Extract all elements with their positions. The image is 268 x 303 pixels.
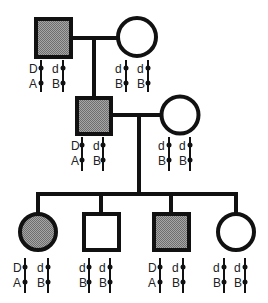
allele-label: A xyxy=(148,276,156,290)
individual-II-2-unaffected-female xyxy=(162,97,199,134)
individual-III-4-unaffected-female xyxy=(218,214,254,250)
allele-label: B xyxy=(79,276,87,290)
allele-label: A xyxy=(71,154,79,168)
allele-label: D xyxy=(29,62,38,76)
genotype-II-2: d B d B xyxy=(158,137,193,171)
genotype-I-1: D A d B xyxy=(29,60,66,92)
genotype-III-3: D A d B xyxy=(148,258,186,293)
allele-label: d xyxy=(115,62,122,76)
allele-label: d xyxy=(172,261,179,275)
allele-label: d xyxy=(213,261,220,275)
allele-label: A xyxy=(29,77,37,91)
allele-label: B xyxy=(179,154,187,168)
individual-III-2-unaffected-male xyxy=(84,214,119,250)
allele-label: d xyxy=(93,139,100,153)
allele-label: B xyxy=(172,276,180,290)
allele-label: d xyxy=(79,261,86,275)
allele-label: B xyxy=(115,77,123,91)
allele-label: B xyxy=(158,154,166,168)
allele-label: B xyxy=(137,77,145,91)
genotype-II-1: D A d B xyxy=(71,137,106,171)
allele-label: d xyxy=(234,261,241,275)
genotype-III-2: d B d B xyxy=(79,258,113,293)
allele-label: d xyxy=(158,139,165,153)
allele-label: d xyxy=(137,62,144,76)
allele-label: B xyxy=(52,77,60,91)
allele-label: d xyxy=(52,62,59,76)
allele-label: D xyxy=(13,261,22,275)
allele-label: B xyxy=(234,276,242,290)
individual-I-1-affected-male xyxy=(36,19,71,57)
allele-label: d xyxy=(37,261,44,275)
individual-I-2-unaffected-female xyxy=(118,18,156,56)
individual-III-3-affected-male xyxy=(154,214,189,250)
genotype-III-1: D A d B xyxy=(13,258,51,293)
allele-label: D xyxy=(71,139,80,153)
allele-label: B xyxy=(93,154,101,168)
individual-III-1-affected-female xyxy=(20,214,56,250)
pedigree-diagram: D A d B d B d B D A xyxy=(0,0,268,303)
allele-label: d xyxy=(179,139,186,153)
allele-label: B xyxy=(99,276,107,290)
genotype-I-2: d B d B xyxy=(115,60,151,92)
allele-label: B xyxy=(37,276,45,290)
individual-II-1-affected-male xyxy=(77,98,111,134)
allele-label: A xyxy=(13,276,21,290)
genotype-III-4: d B d B xyxy=(213,258,248,293)
allele-label: d xyxy=(99,261,106,275)
allele-label: B xyxy=(213,276,221,290)
allele-label: D xyxy=(148,261,157,275)
